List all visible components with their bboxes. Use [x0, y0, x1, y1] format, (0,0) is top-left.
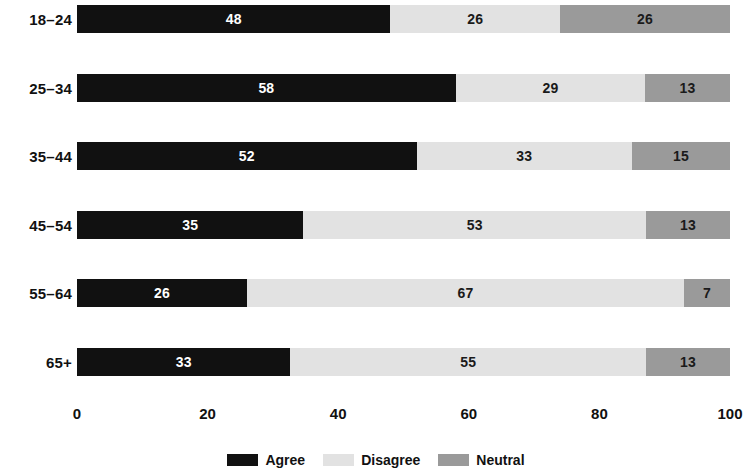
bar-segment-disagree: 53	[303, 211, 646, 239]
y-axis-category-label: 45–54	[0, 218, 72, 233]
bar-track: 582913	[77, 74, 730, 102]
bar-segment-neutral: 13	[645, 74, 730, 102]
bar-row: 482626	[77, 5, 730, 33]
bar-segment-value: 53	[467, 218, 483, 232]
bar-segment-value: 48	[226, 12, 242, 26]
legend-swatch-icon	[438, 454, 469, 466]
bar-segment-agree: 52	[77, 142, 417, 170]
bar-segment-agree: 26	[77, 279, 247, 307]
bar-row: 582913	[77, 74, 730, 102]
y-axis-category-label: 18–24	[0, 12, 72, 27]
bar-row: 26677	[77, 279, 730, 307]
bar-segment-neutral: 15	[632, 142, 730, 170]
bar-segment-value: 26	[467, 12, 483, 26]
legend-label: Agree	[265, 453, 305, 467]
bar-segment-agree: 58	[77, 74, 456, 102]
y-axis-category-label: 55–64	[0, 286, 72, 301]
bar-segment-value: 67	[458, 286, 474, 300]
x-axis-tick-label: 40	[330, 406, 347, 421]
bar-segment-value: 13	[680, 218, 696, 232]
legend-label: Neutral	[476, 453, 524, 467]
bar-segment-value: 26	[637, 12, 653, 26]
stacked-bar-chart: 18–2425–3435–4445–5455–6465+ 48262658291…	[0, 0, 752, 473]
x-axis: 020406080100	[77, 400, 730, 434]
bar-segment-disagree: 33	[417, 142, 632, 170]
chart-legend: AgreeDisagreeNeutral	[0, 446, 752, 473]
bar-segment-neutral: 26	[560, 5, 730, 33]
bar-track: 523315	[77, 142, 730, 170]
bar-segment-value: 33	[176, 355, 192, 369]
bar-segment-agree: 48	[77, 5, 390, 33]
bar-segment-disagree: 29	[456, 74, 645, 102]
bar-segment-disagree: 67	[247, 279, 685, 307]
y-axis-category-label: 35–44	[0, 149, 72, 164]
x-axis-tick-label: 100	[717, 406, 742, 421]
bar-segment-value: 7	[703, 286, 711, 300]
bar-row: 335513	[77, 348, 730, 376]
bar-segment-value: 35	[182, 218, 198, 232]
legend-swatch-icon	[323, 454, 354, 466]
legend-label: Disagree	[361, 453, 420, 467]
bar-segment-value: 33	[516, 149, 532, 163]
bar-segment-disagree: 26	[390, 5, 560, 33]
bar-segment-neutral: 7	[684, 279, 730, 307]
bar-segment-value: 13	[680, 81, 696, 95]
y-axis-category-label: 65+	[0, 355, 72, 370]
x-axis-tick-label: 80	[591, 406, 608, 421]
bar-track: 482626	[77, 5, 730, 33]
bar-segment-disagree: 55	[290, 348, 646, 376]
bar-row: 355313	[77, 211, 730, 239]
bar-segment-neutral: 13	[646, 348, 730, 376]
bar-segment-agree: 35	[77, 211, 303, 239]
bar-track: 335513	[77, 348, 730, 376]
y-axis-category-labels: 18–2425–3435–4445–5455–6465+	[0, 0, 72, 400]
x-axis-tick-label: 20	[199, 406, 216, 421]
bar-segment-value: 29	[542, 81, 558, 95]
bar-track: 355313	[77, 211, 730, 239]
bar-row: 523315	[77, 142, 730, 170]
bar-segment-neutral: 13	[646, 211, 730, 239]
y-axis-category-label: 25–34	[0, 81, 72, 96]
legend-item[interactable]: Agree	[227, 453, 305, 467]
legend-item[interactable]: Neutral	[438, 453, 524, 467]
bar-segment-agree: 33	[77, 348, 290, 376]
bar-track: 26677	[77, 279, 730, 307]
bar-segment-value: 26	[154, 286, 170, 300]
legend-item[interactable]: Disagree	[323, 453, 420, 467]
bar-segment-value: 15	[673, 149, 689, 163]
bar-segment-value: 55	[460, 355, 476, 369]
bar-segment-value: 58	[258, 81, 274, 95]
x-axis-tick-label: 0	[73, 406, 81, 421]
plot-area: 48262658291352331535531326677335513	[77, 0, 730, 400]
legend-swatch-icon	[227, 454, 258, 466]
bar-segment-value: 13	[680, 355, 696, 369]
x-axis-tick-label: 60	[460, 406, 477, 421]
bar-segment-value: 52	[239, 149, 255, 163]
